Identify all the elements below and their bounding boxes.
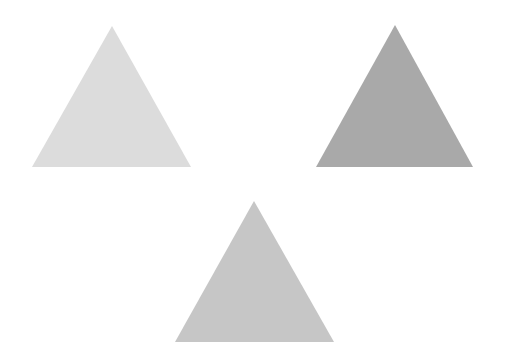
triangle-medium [175,201,334,342]
triangle-dark [316,25,473,167]
triangle-light [32,26,191,167]
triangles-diagram [0,0,506,364]
